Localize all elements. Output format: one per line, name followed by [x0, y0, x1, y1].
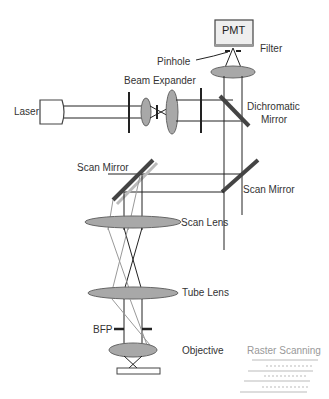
label-beam-expander: Beam Expander [124, 75, 196, 86]
label-pmt: PMT [222, 25, 245, 36]
label-tube-lens: Tube Lens [182, 287, 229, 298]
label-scan-mirror-right: Scan Mirror [243, 184, 295, 195]
label-laser: Laser [14, 106, 39, 117]
label-raster-scanning: Raster Scanning [247, 345, 321, 356]
label-filter: Filter [260, 43, 282, 54]
label-bfp: BFP [93, 324, 112, 335]
label-mirror: Mirror [261, 114, 287, 125]
filter [215, 44, 253, 47]
label-scan-mirror-left: Scan Mirror [77, 162, 129, 173]
label-objective: Objective [182, 345, 224, 356]
label-scan-lens: Scan Lens [181, 217, 228, 228]
label-pinhole: Pinhole [157, 56, 190, 67]
objective-shape [109, 343, 157, 357]
sample-slide [117, 368, 160, 374]
tube-lens-shape [88, 287, 178, 299]
laser-body [40, 100, 64, 124]
label-dichromatic: Dichromatic [247, 101, 300, 112]
detector-lens [211, 66, 255, 78]
scan-lens-shape [85, 216, 181, 228]
